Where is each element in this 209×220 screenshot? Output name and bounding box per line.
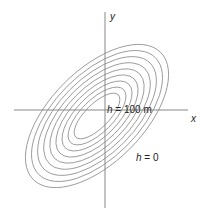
contour-ellipse xyxy=(9,28,185,204)
contour-ellipse xyxy=(17,36,177,196)
height-value: = 100 m xyxy=(113,104,152,115)
height-value: = 0 xyxy=(142,152,159,163)
contour-label-bottom: h = 0 xyxy=(136,152,159,163)
contour-label-top: h = 100 m xyxy=(107,104,152,115)
contour-ellipse xyxy=(26,45,169,188)
contour-diagram xyxy=(0,0,209,220)
contour-lines xyxy=(1,20,194,213)
contour-ellipse xyxy=(51,70,144,163)
x-axis-label: x xyxy=(191,113,196,124)
contour-ellipse xyxy=(1,20,194,213)
y-axis-label: y xyxy=(110,11,115,22)
